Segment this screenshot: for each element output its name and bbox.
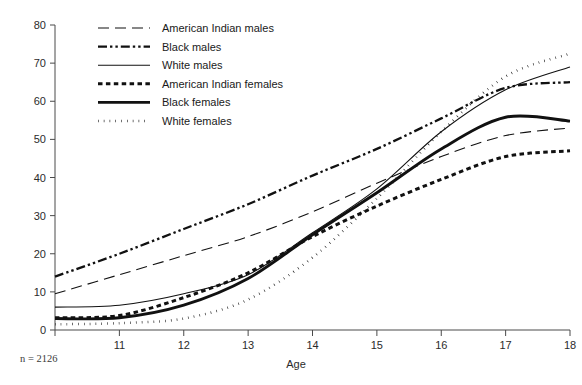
legend-label: Black females (162, 96, 231, 108)
x-tick-label: 18 (564, 339, 576, 351)
series-line (55, 54, 570, 325)
line-chart: 01020304050607080 1112131415161718 Ameri… (0, 0, 582, 385)
y-tick-label: 50 (34, 133, 46, 145)
legend-label: American Indian females (162, 78, 284, 90)
y-tick-label: 80 (34, 19, 46, 31)
y-axis: 01020304050607080 (34, 19, 55, 336)
x-tick-label: 12 (178, 339, 190, 351)
x-tick-label: 14 (306, 339, 318, 351)
x-tick-label: 17 (500, 339, 512, 351)
chart-legend: American Indian malesBlack malesWhite ma… (98, 22, 284, 127)
chart-container: 01020304050607080 1112131415161718 Ameri… (0, 0, 582, 385)
x-tick-label: 15 (371, 339, 383, 351)
legend-label: Black males (162, 41, 222, 53)
x-axis-title: Age (286, 358, 306, 370)
legend-label: White males (162, 59, 223, 71)
sample-size-note: n = 2126 (20, 353, 57, 364)
y-tick-label: 30 (34, 210, 46, 222)
x-tick-label: 16 (435, 339, 447, 351)
series-line (55, 116, 570, 319)
y-tick-label: 10 (34, 286, 46, 298)
x-axis: 1112131415161718 (55, 330, 576, 351)
y-tick-label: 60 (34, 95, 46, 107)
legend-label: White females (162, 115, 232, 127)
legend-label: American Indian males (162, 22, 274, 34)
x-tick-label: 13 (242, 339, 254, 351)
y-tick-label: 40 (34, 172, 46, 184)
series-line (55, 128, 570, 294)
x-tick-label: 11 (114, 339, 125, 351)
y-tick-label: 20 (34, 248, 46, 260)
y-tick-label: 70 (34, 57, 46, 69)
y-tick-label: 0 (40, 324, 46, 336)
series-line (55, 82, 570, 276)
series-lines (55, 54, 570, 325)
